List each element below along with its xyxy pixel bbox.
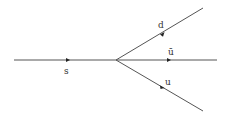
outgoing-line-ubar (116, 58, 217, 62)
feynman-diagram: s d ū u (0, 0, 229, 115)
outgoing-line-u (116, 60, 203, 111)
label-d: d (158, 20, 164, 30)
label-ubar: ū (168, 47, 174, 57)
arrow-icon (167, 58, 171, 62)
label-u: u (165, 77, 171, 87)
incoming-line-s (14, 58, 116, 62)
arrow-icon (66, 58, 70, 62)
label-s: s (64, 66, 69, 76)
outgoing-line-d (116, 8, 203, 60)
